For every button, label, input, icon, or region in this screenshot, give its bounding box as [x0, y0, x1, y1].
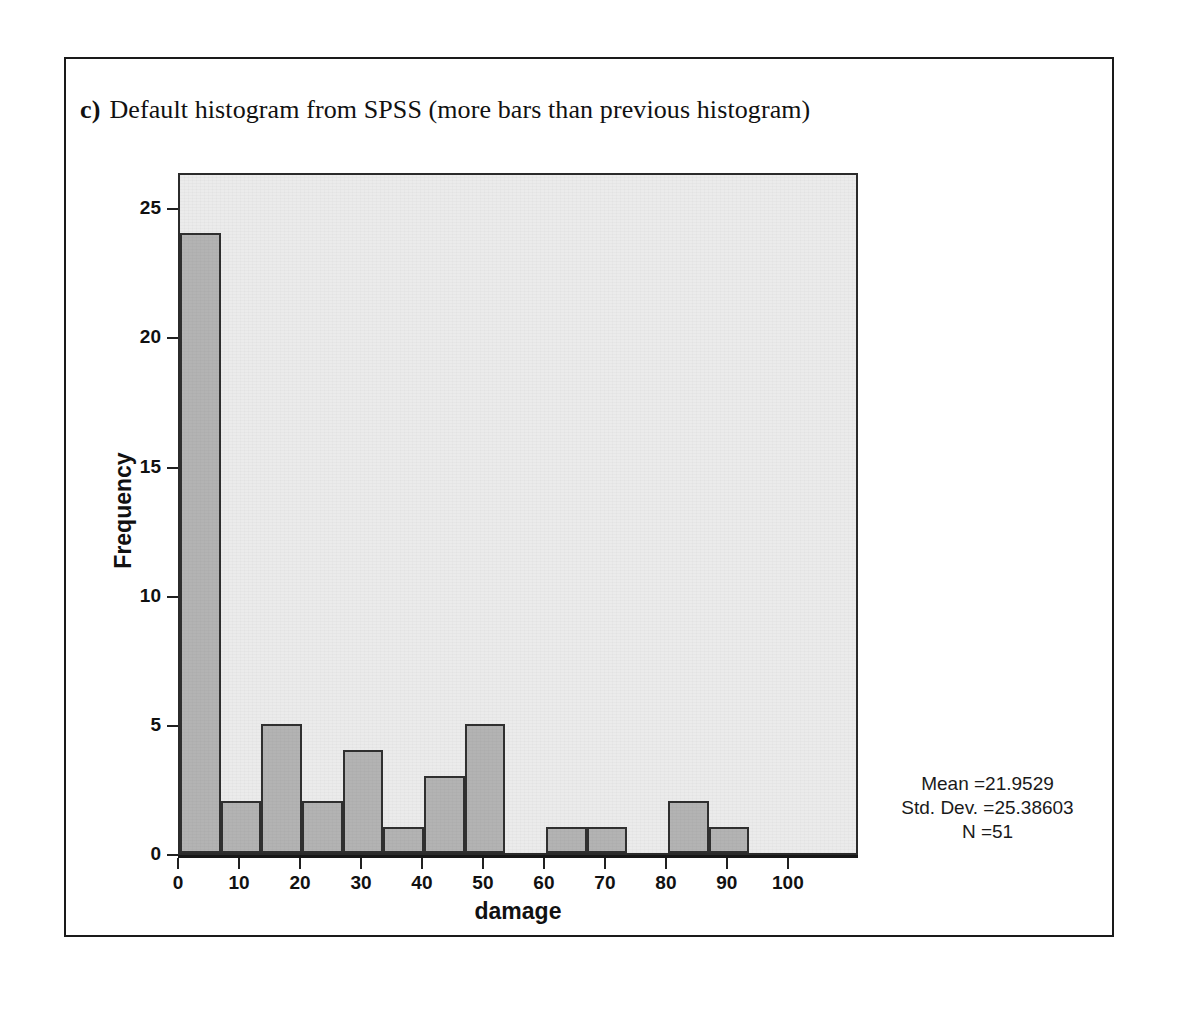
- caption-text: Default histogram from SPSS (more bars t…: [109, 95, 810, 124]
- page-border-frame: [64, 57, 1114, 937]
- figure-caption: c)Default histogram from SPSS (more bars…: [80, 95, 810, 125]
- caption-item-label: c): [80, 95, 100, 124]
